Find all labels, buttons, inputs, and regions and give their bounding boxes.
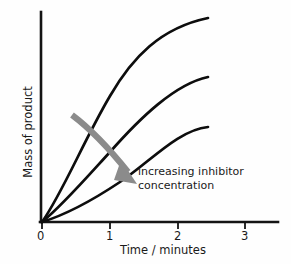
curve-low-inhibitor: [42, 77, 208, 222]
chart-canvas: [0, 0, 291, 264]
x-axis-title: Time / minutes: [120, 243, 206, 257]
x-tick-label-3: 3: [241, 231, 248, 243]
x-tick-label-1: 1: [106, 231, 113, 243]
chart-figure: 0 1 2 3 Time / minutes Mass of product i…: [0, 0, 291, 264]
inhibitor-annotation-text: increasing inhibitor concentration: [138, 165, 244, 193]
x-tick-label-0: 0: [37, 231, 44, 243]
y-axis-title: Mass of product: [21, 77, 35, 187]
x-tick-label-2: 2: [174, 231, 181, 243]
